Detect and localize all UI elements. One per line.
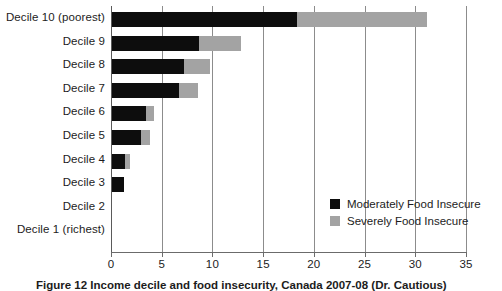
x-tick-label-15: 15 (257, 258, 270, 270)
bar-row (111, 36, 466, 51)
bar-segment-moderate (112, 154, 125, 169)
bar-row (111, 59, 466, 74)
category-label-3: Decile 8 (63, 58, 105, 70)
category-label-6: Decile 5 (63, 129, 105, 141)
category-label-4: Decile 7 (63, 82, 105, 94)
x-tick-35 (466, 252, 467, 257)
x-tick-5 (162, 252, 163, 257)
category-label-7: Decile 4 (63, 153, 105, 165)
bar-segment-moderate (112, 177, 124, 192)
category-label-2: Decile 9 (63, 35, 105, 47)
legend-swatch-moderate-icon (330, 199, 340, 209)
legend-label-moderate: Moderately Food Insecure (347, 198, 481, 210)
x-tick-20 (314, 252, 315, 257)
legend-swatch-severe-icon (330, 216, 340, 226)
bar-segment-moderate (112, 12, 297, 27)
bar-segment-severe (184, 59, 210, 74)
bar-segment-severe (179, 83, 198, 98)
chart-legend: Moderately Food Insecure Severely Food I… (330, 196, 481, 230)
bar-row (111, 130, 466, 145)
bar-row (111, 106, 466, 121)
bar-row (111, 154, 466, 169)
bar-segment-severe (146, 106, 153, 121)
x-tick-label-20: 20 (307, 258, 320, 270)
category-label-10: Decile 1 (richest) (17, 223, 105, 235)
bar-row (111, 12, 466, 27)
bar-segment-moderate (112, 83, 179, 98)
bar-row (111, 177, 466, 192)
legend-label-severe: Severely Food Insecure (347, 215, 468, 227)
bar-row (111, 83, 466, 98)
category-label-5: Decile 6 (63, 105, 105, 117)
figure-caption: Figure 12 Income decile and food insecur… (36, 279, 496, 291)
x-tick-25 (365, 252, 366, 257)
x-tick-10 (212, 252, 213, 257)
x-tick-label-0: 0 (108, 258, 115, 270)
x-tick-label-30: 30 (409, 258, 422, 270)
x-axis-line (111, 252, 467, 253)
x-tick-30 (415, 252, 416, 257)
legend-item-moderate: Moderately Food Insecure (330, 196, 481, 211)
x-tick-label-5: 5 (158, 258, 165, 270)
bar-segment-moderate (112, 36, 199, 51)
x-tick-label-25: 25 (358, 258, 371, 270)
category-label-8: Decile 3 (63, 176, 105, 188)
x-tick-label-10: 10 (206, 258, 219, 270)
bar-segment-severe (141, 130, 149, 145)
bar-segment-moderate (112, 106, 146, 121)
x-tick-15 (263, 252, 264, 257)
x-tick-0 (111, 252, 112, 257)
bar-segment-severe (199, 36, 241, 51)
x-tick-label-35: 35 (459, 258, 472, 270)
bar-segment-moderate (112, 59, 184, 74)
bar-segment-severe (125, 154, 130, 169)
legend-item-severe: Severely Food Insecure (330, 213, 481, 228)
category-label-1: Decile 10 (poorest) (6, 11, 105, 23)
bar-segment-severe (297, 12, 428, 27)
category-label-9: Decile 2 (63, 200, 105, 212)
bar-segment-moderate (112, 130, 141, 145)
